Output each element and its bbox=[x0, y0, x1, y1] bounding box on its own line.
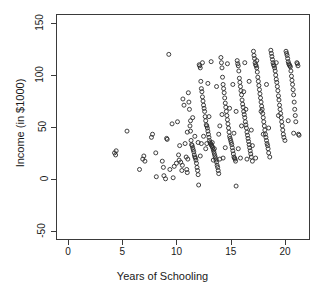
data-points-layer bbox=[57, 15, 309, 239]
x-tick-mark bbox=[231, 240, 232, 245]
scatter-plot-figure: 05101520 -50050100150 Years of Schooling… bbox=[0, 0, 325, 294]
y-tick-label: 150 bbox=[0, 17, 48, 28]
x-tick-label: 5 bbox=[102, 246, 142, 257]
x-tick-mark bbox=[176, 240, 177, 245]
y-tick-mark bbox=[51, 23, 56, 24]
x-tick-label: 10 bbox=[156, 246, 196, 257]
y-tick-mark bbox=[51, 231, 56, 232]
x-tick-mark bbox=[68, 240, 69, 245]
x-axis-title: Years of Schooling bbox=[0, 270, 325, 282]
x-tick-label: 15 bbox=[211, 246, 251, 257]
y-tick-mark bbox=[51, 179, 56, 180]
y-tick-label: -50 bbox=[0, 225, 48, 236]
x-tick-mark bbox=[122, 240, 123, 245]
y-tick-mark bbox=[51, 75, 56, 76]
x-tick-label: 20 bbox=[265, 246, 305, 257]
y-axis-title: Income (in $1000) bbox=[14, 43, 26, 203]
plot-area bbox=[56, 14, 310, 240]
x-tick-label: 0 bbox=[48, 246, 88, 257]
y-tick-mark bbox=[51, 127, 56, 128]
x-tick-mark bbox=[285, 240, 286, 245]
